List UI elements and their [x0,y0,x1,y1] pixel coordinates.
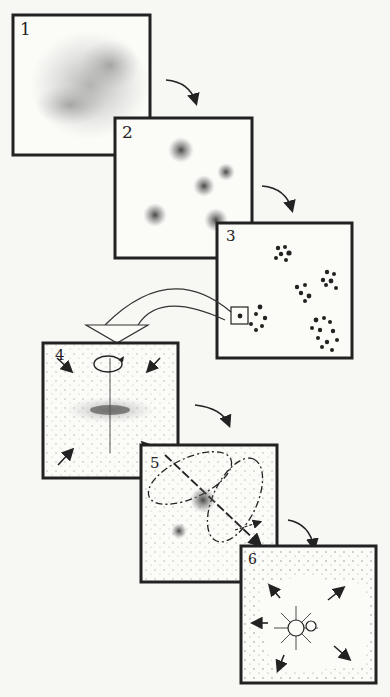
panel-6: 6 [241,546,376,683]
panel-3: 3 [217,223,352,358]
magnify-arrow [105,289,231,325]
panel-1-label: 1 [20,19,31,39]
arrow-5-to-6 [288,520,314,548]
arrow-4-to-5 [195,405,229,425]
diagram-canvas: 1 2 3 [0,0,390,697]
panel-4-label: 4 [55,346,65,364]
panel-3-label: 3 [226,227,236,245]
arrow-2-to-3 [262,186,292,210]
arrow-1-to-2 [166,80,196,103]
panel-2-label: 2 [122,122,133,142]
panel-6-label: 6 [248,551,257,567]
panel-5-label: 5 [150,454,160,472]
